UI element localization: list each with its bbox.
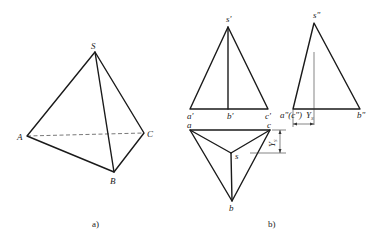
arrow-down <box>279 149 282 153</box>
label-b: b <box>229 203 234 213</box>
edge-sb <box>95 52 114 172</box>
caption-a: a) <box>92 219 99 229</box>
label-c: c <box>267 120 271 130</box>
label-s: s <box>235 151 239 161</box>
pyramid-3d-view: S A C B a) <box>16 41 154 229</box>
top-triangle <box>190 130 270 201</box>
label-a: a <box>187 120 192 130</box>
label-dim-ys-side: YS <box>306 110 314 121</box>
label-s-dblprime: s" <box>313 10 321 20</box>
label-s-prime: s' <box>226 14 233 24</box>
top-view: a c s b YS b) <box>187 120 286 229</box>
arrow-up <box>279 130 282 134</box>
front-triangle <box>190 27 268 109</box>
side-triangle <box>293 23 360 109</box>
arrow-left <box>293 123 297 126</box>
top-edge-sb <box>231 153 232 201</box>
front-view: s' a' b' c' <box>187 14 272 121</box>
label-dim-ys-top: YS <box>267 139 278 147</box>
label-C: C <box>147 129 154 139</box>
pyramid-outline <box>27 52 144 172</box>
label-a-c-dblprime: a"(c") <box>280 110 302 120</box>
label-A: A <box>16 132 23 142</box>
side-view: s" a"(c") YS b" <box>280 10 366 127</box>
label-S: S <box>91 41 96 51</box>
arrow-right <box>310 123 314 126</box>
label-b-dblprime: b" <box>357 110 366 120</box>
hidden-edge-ac <box>27 133 144 136</box>
label-b-prime: b' <box>227 111 235 121</box>
label-B: B <box>110 176 116 186</box>
caption-b: b) <box>268 219 276 229</box>
diagram-canvas: S A C B a) s' a' b' c' s" a"(c") YS b" a… <box>0 0 380 242</box>
